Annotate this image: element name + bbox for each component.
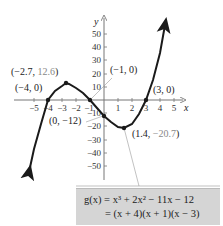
x-tick-label: −3 — [57, 103, 67, 113]
x-tick-label: 5 — [172, 103, 177, 113]
y-tick-label: 20 — [92, 69, 102, 79]
x-tick-label: −2 — [71, 103, 81, 113]
y-axis-label: y — [93, 16, 99, 27]
point-y-intercept — [102, 114, 106, 118]
zero-neg4-label: (−4, 0) — [15, 82, 42, 94]
zero-neg1-label: (−1, 0) — [110, 64, 137, 76]
point-zero-neg4 — [46, 98, 50, 102]
point-zero-3 — [144, 98, 148, 102]
formula-box: g(x) = x³ + 2x² − 11x − 12 = (x + 4)(x +… — [76, 188, 220, 225]
y-intercept-label: (0, −12) — [49, 115, 81, 127]
y-tick-label: −30 — [87, 135, 102, 145]
y-tick-label: −50 — [87, 161, 102, 171]
y-tick-label: 10 — [92, 82, 102, 92]
y-tick-label: 50 — [92, 29, 102, 39]
x-axis-label: x — [183, 102, 189, 113]
max-point-label: (−2.7, 12.6) — [11, 66, 58, 78]
x-tick-label: 2 — [130, 103, 135, 113]
formula-factored: = (x + 4)(x + 1)(x − 3) — [105, 208, 200, 219]
x-tick-label: 1 — [116, 103, 121, 113]
formula-expanded: g(x) = x³ + 2x² − 11x − 12 — [84, 194, 194, 205]
y-tick-label: 40 — [92, 42, 102, 52]
x-tick-label: −5 — [29, 103, 39, 113]
x-tick-label: 4 — [158, 103, 163, 113]
point-min — [122, 126, 126, 130]
y-tick-label: −40 — [87, 148, 102, 158]
y-tick-label: −20 — [87, 121, 102, 131]
point-zero-neg1 — [88, 98, 92, 102]
zero-3-label: (3, 0) — [153, 84, 175, 96]
point-max — [64, 81, 68, 85]
min-point-label: (1.4, −20.7) — [132, 128, 179, 140]
y-tick-label: 30 — [92, 55, 102, 65]
